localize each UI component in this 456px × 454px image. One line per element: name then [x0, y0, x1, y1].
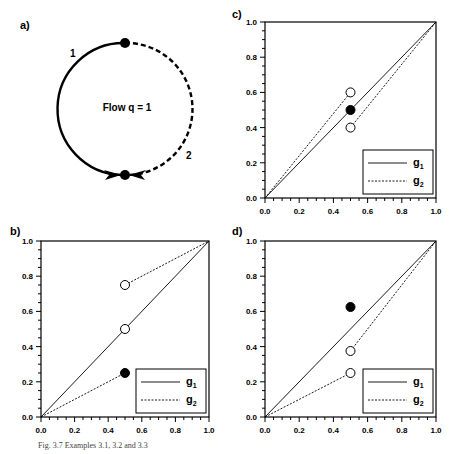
x-tick-label: 0.4 [328, 426, 340, 435]
series-g2-line [41, 373, 125, 417]
x-tick-label: 1.0 [430, 426, 442, 435]
y-tick-label: 0.0 [246, 413, 258, 422]
y-tick-label: 0.6 [246, 307, 258, 316]
y-tick-label: 0.4 [246, 124, 258, 133]
open-marker [346, 347, 355, 356]
x-tick-label: 1.0 [430, 207, 442, 216]
x-tick-label: 0.6 [362, 207, 374, 216]
y-tick-label: 0.2 [22, 378, 34, 387]
figure: a) 1 2 Flow q = 1 c)0.00.20.40.60.81.00.… [0, 0, 456, 454]
panel-label: b) [10, 225, 21, 237]
series-g2-line [265, 92, 351, 198]
y-tick-label: 0.2 [246, 159, 258, 168]
arc-2-label: 2 [186, 150, 192, 161]
series-g1-line [125, 241, 209, 329]
source-node [120, 38, 130, 48]
filled-marker [346, 303, 355, 312]
y-tick-label: 1.0 [246, 18, 258, 27]
series-g2-line [351, 241, 437, 351]
y-tick-label: 0.4 [22, 343, 34, 352]
x-tick-label: 0.6 [362, 426, 374, 435]
x-tick-label: 0.0 [35, 426, 47, 435]
y-tick-label: 0.8 [246, 272, 258, 281]
panel-label: d) [232, 225, 243, 237]
panel-c: c)0.00.20.40.60.81.00.00.20.40.60.81.0g1… [232, 8, 442, 216]
x-tick-label: 0.0 [259, 207, 271, 216]
open-marker [346, 88, 355, 97]
y-tick-label: 1.0 [246, 237, 258, 246]
figure-caption: Fig. 3.7 Examples 3.1, 3.2 and 3.3 [38, 441, 148, 450]
x-tick-label: 0.2 [294, 207, 306, 216]
y-tick-label: 1.0 [22, 237, 34, 246]
arrowhead-2-icon [129, 170, 146, 180]
panel-a: a) 1 2 Flow q = 1 [20, 19, 192, 180]
x-tick-label: 0.4 [328, 207, 340, 216]
y-tick-label: 0.8 [22, 272, 34, 281]
y-tick-label: 0.0 [246, 194, 258, 203]
series-g2-line [351, 22, 437, 128]
series-g2-line [125, 241, 209, 285]
x-tick-label: 0.2 [294, 426, 306, 435]
arrowhead-1-icon [104, 170, 121, 180]
x-tick-label: 0.8 [396, 426, 408, 435]
x-tick-label: 0.4 [103, 426, 115, 435]
series-g1-line [41, 329, 125, 417]
filled-marker [346, 106, 355, 115]
panel-d: d)0.00.20.40.60.81.00.00.20.40.60.81.0g1… [232, 225, 442, 435]
x-tick-label: 1.0 [203, 426, 215, 435]
x-tick-label: 0.2 [69, 426, 81, 435]
panel-label: c) [232, 8, 242, 20]
y-tick-label: 0.8 [246, 53, 258, 62]
x-tick-label: 0.0 [259, 426, 271, 435]
open-marker [346, 123, 355, 132]
open-marker [121, 325, 130, 334]
x-tick-label: 0.8 [396, 207, 408, 216]
open-marker [121, 281, 130, 290]
y-tick-label: 0.0 [22, 413, 34, 422]
x-tick-label: 0.8 [170, 426, 182, 435]
y-tick-label: 0.2 [246, 378, 258, 387]
x-tick-label: 0.6 [136, 426, 148, 435]
arc-1-label: 1 [70, 48, 76, 59]
flow-label: Flow q = 1 [103, 102, 152, 113]
y-tick-label: 0.6 [246, 88, 258, 97]
y-tick-label: 0.6 [22, 307, 34, 316]
panel-a-label: a) [20, 19, 30, 31]
filled-marker [121, 369, 130, 378]
sink-node [120, 170, 130, 180]
open-marker [346, 369, 355, 378]
series-g2-line [265, 373, 351, 417]
panel-b: b)0.00.20.40.60.81.00.00.20.40.60.81.0g1… [10, 225, 215, 435]
y-tick-label: 0.4 [246, 343, 258, 352]
